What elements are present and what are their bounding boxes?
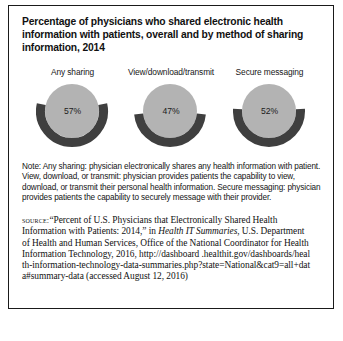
source-publication-title: Health IT Summaries	[158, 226, 237, 236]
chart-label: Secure messaging	[236, 67, 304, 77]
chart-label: View/download/transmit	[128, 67, 214, 77]
donut-svg	[36, 80, 110, 150]
chart-label: Any sharing	[51, 67, 94, 77]
donut-chart-secure-messaging: Secure messaging 52%	[221, 67, 318, 150]
source-label: source:	[22, 216, 49, 225]
donut-disc	[143, 84, 197, 138]
donut-svg	[233, 80, 307, 150]
donut-chart-any-sharing: Any sharing 57%	[24, 67, 121, 150]
donut-svg	[134, 80, 208, 150]
donut-graphic: 47%	[134, 80, 208, 150]
page-title: Percentage of physicians who shared elec…	[22, 15, 310, 55]
figure-container: Percentage of physicians who shared elec…	[8, 5, 334, 309]
donut-graphic: 52%	[233, 80, 307, 150]
figure-inner: Percentage of physicians who shared elec…	[9, 6, 333, 283]
donut-graphic: 57%	[36, 80, 110, 150]
figure-source: source:“Percent of U.S. Physicians that …	[22, 215, 310, 283]
donut-disc	[45, 84, 99, 138]
donut-disc	[242, 84, 296, 138]
donut-chart-view-download-transmit: View/download/transmit 47%	[123, 67, 220, 150]
charts-row: Any sharing 57% View/download/transmit	[22, 67, 322, 150]
figure-note: Note: Any sharing: physician electronica…	[22, 162, 321, 204]
